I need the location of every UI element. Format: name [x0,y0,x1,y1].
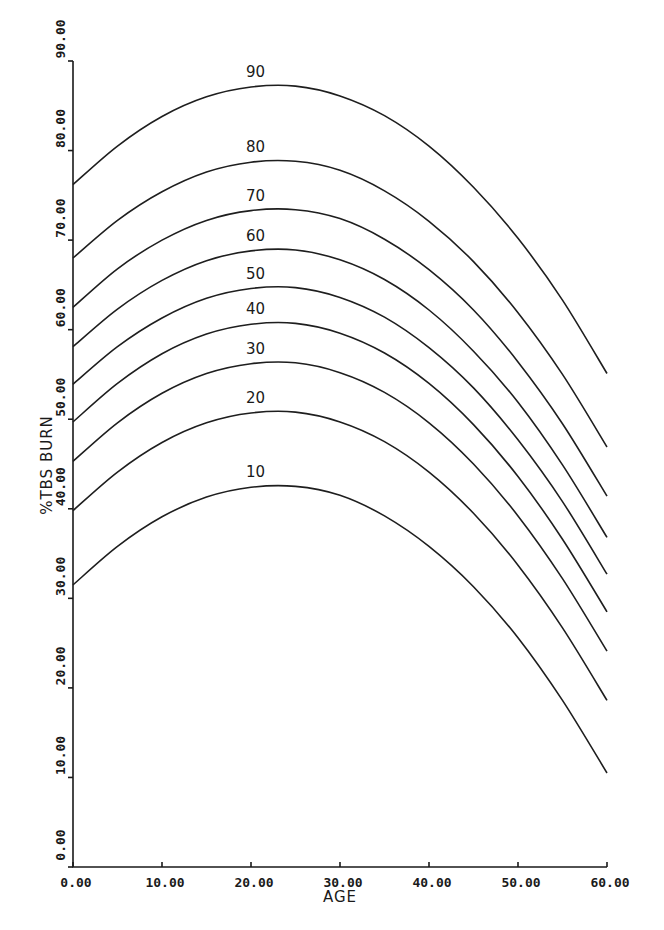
curve-label-60: 60 [246,227,265,245]
y-tick-label: 80.00 [53,109,68,148]
y-tick-label: 90.00 [53,19,68,58]
curve-80 [73,161,607,447]
x-tick-label: 10.00 [145,875,184,890]
y-tick-label: 0.00 [53,829,68,860]
curve-label-30: 30 [246,340,265,358]
y-tick-label: 20.00 [53,646,68,685]
chart-curves [73,85,607,773]
axis-lines [73,61,607,867]
curve-label-80: 80 [246,138,265,156]
curve-label-50: 50 [246,265,265,283]
curve-40 [73,323,607,612]
x-axis-title: AGE [323,888,357,906]
curve-label-20: 20 [246,389,265,407]
curve-70 [73,209,607,496]
curve-label-40: 40 [246,300,265,318]
burn-isopleth-chart: 0.0010.0020.0030.0040.0050.0060.000.0010… [0,0,664,930]
curve-60 [73,249,607,537]
x-tick-label: 40.00 [412,875,451,890]
y-tick-label: 70.00 [53,198,68,237]
y-tick-label: 50.00 [53,377,68,416]
y-tick-label: 10.00 [53,736,68,775]
curve-30 [73,362,607,651]
curve-20 [73,411,607,700]
x-tick-label: 0.00 [60,875,91,890]
y-tick-label: 60.00 [53,288,68,327]
chart-axes: 0.0010.0020.0030.0040.0050.0060.000.0010… [53,19,630,890]
curve-label-90: 90 [246,63,265,81]
chart-curve-labels: 908070605040302010 [246,63,265,481]
x-tick-label: 20.00 [234,875,273,890]
curve-90 [73,85,607,373]
curve-50 [73,287,607,574]
curve-label-70: 70 [246,187,265,205]
y-tick-label: 30.00 [53,557,68,596]
y-axis-title: %TBS BURN [38,415,56,515]
curve-label-10: 10 [246,463,265,481]
x-tick-label: 50.00 [501,875,540,890]
x-tick-label: 60.00 [590,875,629,890]
